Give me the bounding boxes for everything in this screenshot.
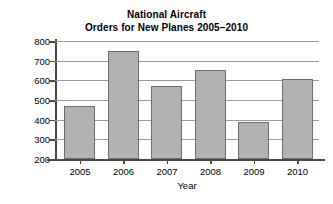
y-tick-label: 800 (24, 37, 50, 46)
y-tick-label: 600 (24, 76, 50, 85)
x-tick-mark (80, 159, 82, 164)
bar-2006 (108, 51, 139, 159)
gridline (55, 80, 319, 81)
bar-2010 (282, 79, 313, 159)
x-tick-mark (254, 159, 256, 164)
y-tick-label: 500 (24, 96, 50, 105)
y-tick-mark (49, 159, 56, 161)
gridline (55, 100, 319, 101)
bar-2009 (238, 122, 269, 159)
x-tick-label-2007: 2007 (147, 166, 187, 177)
y-tick-label: 400 (24, 116, 50, 125)
y-tick-label: 300 (24, 135, 50, 144)
chart-title-line-2: Orders for New Planes 2005–2010 (0, 21, 333, 34)
chart-title: National Aircraft Orders for New Planes … (0, 8, 333, 34)
chart-title-line-1: National Aircraft (0, 8, 333, 21)
y-tick-label: 700 (24, 57, 50, 66)
x-tick-mark (167, 159, 169, 164)
x-axis-title: Year (55, 180, 319, 191)
x-tick-label-2009: 2009 (234, 166, 274, 177)
y-tick-label: 200 (24, 155, 50, 164)
x-tick-label-2008: 2008 (191, 166, 231, 177)
x-tick-label-2005: 2005 (60, 166, 100, 177)
bar-2008 (195, 70, 226, 160)
bar-2007 (151, 86, 182, 159)
x-axis-line (47, 159, 325, 161)
gridline (55, 61, 319, 62)
bar-2005 (64, 106, 95, 159)
bar-chart-figure: National Aircraft Orders for New Planes … (0, 0, 333, 204)
plot-area (55, 41, 319, 159)
x-tick-mark (210, 159, 212, 164)
x-tick-mark (123, 159, 125, 164)
x-tick-label-2010: 2010 (278, 166, 318, 177)
x-tick-mark (297, 159, 299, 164)
gridline (55, 41, 319, 42)
x-tick-label-2006: 2006 (104, 166, 144, 177)
